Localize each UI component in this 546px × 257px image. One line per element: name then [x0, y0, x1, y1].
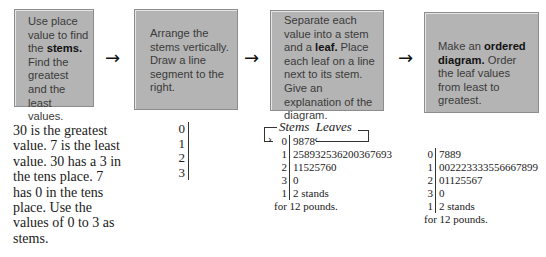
plot-row: 201125567	[424, 174, 538, 187]
leaf-values: 11525760	[290, 161, 337, 174]
step-4-text: Make an	[438, 40, 484, 52]
step-2-text: Arrange the stems vertically. Draw a lin…	[150, 27, 229, 93]
key-stem: 1	[278, 187, 290, 200]
key-stem: 1	[424, 200, 436, 213]
bracket-line	[264, 127, 265, 142]
leaf-values: 0	[290, 174, 299, 187]
leaf-values: 0	[436, 187, 445, 200]
stem-value: 0	[175, 122, 189, 137]
step-1-keyword: stems.	[47, 42, 82, 54]
key-leaf: 2 stands	[290, 187, 329, 200]
leaf-values: 01125567	[436, 174, 483, 187]
plot-row: 30	[424, 187, 538, 200]
stem-value: 1	[278, 148, 290, 161]
stems-diagram: 0 1 2 3	[175, 122, 189, 180]
arrow-icon: →	[105, 49, 120, 67]
stem-value: 1	[424, 161, 436, 174]
plot-row: 211525760	[278, 161, 392, 174]
stem-value: 1	[175, 137, 189, 152]
stem-value: 2	[278, 161, 290, 174]
step-3-keyword: leaf.	[315, 41, 337, 53]
explanation-text: 30 is the greatest value. 7 is the least…	[13, 123, 125, 246]
plot-row: 1002223333556667899	[424, 161, 538, 174]
plot-key: 12 stands	[278, 187, 392, 200]
stem-value: 3	[424, 187, 436, 200]
stems-leaves-header: Stems Leaves	[279, 120, 352, 134]
arrow-icon: →	[398, 49, 413, 67]
arrow-head-icon: ›	[268, 134, 272, 146]
stem-row: 2	[175, 151, 189, 166]
leaf-values: 7889	[436, 148, 461, 161]
step-2-box: Arrange the stems vertically. Draw a lin…	[134, 9, 238, 110]
step-1-text-rest: Find the greatest and the least values.	[28, 56, 68, 122]
key-explanation: for 12 pounds.	[274, 200, 392, 213]
stem-value: 3	[278, 174, 290, 187]
stem-row: 0	[175, 122, 189, 137]
plot-row: 09878	[278, 135, 392, 148]
leaf-values: 258932536200367693	[290, 148, 392, 161]
ordered-plot: 07889 1002223333556667899 201125567 30 1…	[424, 148, 538, 226]
stem-row: 1	[175, 137, 189, 152]
key-leaf: 2 stands	[436, 200, 475, 213]
arrow-icon: →	[244, 49, 259, 67]
stem-value: 2	[175, 151, 189, 166]
step-3-box: Separate each value into a stem and a le…	[270, 10, 384, 111]
plot-key: 12 stands	[424, 200, 538, 213]
plot-row: 1258932536200367693	[278, 148, 392, 161]
bracket-line	[264, 127, 277, 128]
stem-value: 3	[175, 166, 189, 181]
plot-row: 30	[278, 174, 392, 187]
stem-value: 2	[424, 174, 436, 187]
leaf-values: 002223333556667899	[436, 161, 538, 174]
stem-value: 0	[424, 148, 436, 161]
plot-row: 07889	[424, 148, 538, 161]
step-4-box: Make an ordered diagram. Order the leaf …	[424, 12, 539, 113]
unordered-plot: 09878 1258932536200367693 211525760 30 1…	[278, 135, 392, 213]
stem-row: 3	[175, 166, 189, 181]
leaf-values: 9878	[290, 135, 315, 148]
key-explanation: for 12 pounds.	[424, 213, 538, 226]
step-1-box: Use place value to find the stems. Find …	[14, 9, 94, 107]
stem-value: 0	[278, 135, 290, 148]
